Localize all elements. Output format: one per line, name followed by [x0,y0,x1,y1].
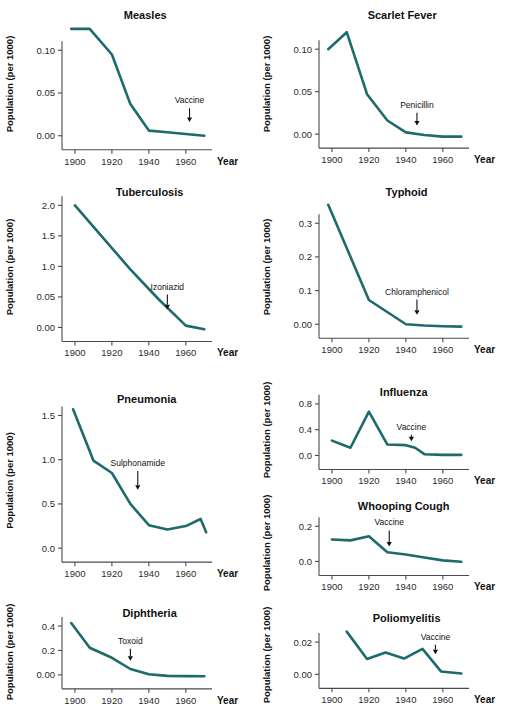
x-tick-label: 1960 [432,344,453,355]
panel-title: Poliomyelitis [373,612,441,624]
data-series-line [71,29,204,136]
data-series-line [332,412,461,455]
x-axis-label: Year [474,344,495,355]
x-tick-label: 1900 [321,154,342,165]
x-tick-label: 1960 [432,581,453,592]
y-tick-label: 2.0 [42,200,55,211]
y-tick-label: 0.02 [294,637,313,648]
y-axis-label: Population (per 1000) [261,495,272,592]
chart-panel-poliomyelitis: PoliomyelitisPopulation (per 1000)0.000.… [257,604,513,714]
x-tick-label: 1960 [175,568,196,579]
x-tick-label: 1940 [138,347,159,358]
annotation-arrow-head [387,542,392,547]
x-axis-label: Year [474,154,495,165]
y-axis-label: Population (per 1000) [261,219,272,316]
y-tick-label: 0.05 [37,87,56,98]
y-tick-label: 1.5 [42,230,55,241]
data-series-line [75,205,204,329]
y-axis-label: Population (per 1000) [4,219,15,316]
annotation-arrow-head [414,121,419,126]
x-tick-label: 1920 [101,347,122,358]
panel-title: Measles [124,9,167,21]
y-tick-label: 0.1 [299,285,312,296]
panel-title: Whooping Cough [358,500,450,512]
y-tick-label: 0.05 [294,86,313,97]
x-tick-label: 1960 [432,154,453,165]
x-tick-label: 1960 [175,347,196,358]
x-tick-label: 1900 [321,344,342,355]
chart-panel-measles: MeaslesPopulation (per 1000)0.000.050.10… [0,0,256,176]
y-axis-label: Population (per 1000) [261,607,272,704]
x-tick-label: 1900 [64,695,85,706]
chart-panel-diphtheria: DiphtheriaPopulation (per 1000)0.000.20.… [0,598,256,714]
chart-panel-typhoid: TyphoidPopulation (per 1000)0.000.10.20.… [257,176,513,366]
panel-title: Scarlet Fever [368,9,438,21]
y-tick-label: 0.00 [37,669,56,680]
panel-title: Pneumonia [117,393,177,405]
y-tick-label: 1.5 [42,410,55,421]
x-tick-label: 1940 [395,581,416,592]
y-tick-label: 0.00 [294,129,313,140]
x-axis-label: Year [217,695,238,706]
annotation-arrow-head [128,656,133,661]
y-tick-label: 0.4 [299,424,312,435]
data-series-line [71,623,204,676]
x-tick-label: 1960 [432,694,453,705]
x-tick-label: 1940 [138,695,159,706]
y-tick-label: 0.00 [294,669,313,680]
x-axis-label: Year [217,156,238,167]
annotation-label: Chloramphenicol [385,287,449,297]
x-axis-label: Year [217,568,238,579]
annotation-arrow-head [414,310,419,315]
y-axis-label: Population (per 1000) [4,432,15,529]
x-tick-label: 1920 [101,568,122,579]
x-axis-label: Year [474,581,495,592]
annotation-arrow-head [409,437,414,442]
x-tick-label: 1900 [64,156,85,167]
x-axis-label: Year [217,347,238,358]
panel-title: Tuberculosis [116,186,184,198]
y-tick-label: 0.0 [299,556,312,567]
y-tick-label: 0.05 [37,291,56,302]
y-tick-label: 0.2 [299,521,312,532]
x-axis-label: Year [474,694,495,705]
chart-panel-scarlet-fever: Scarlet FeverPopulation (per 1000)0.000.… [257,0,513,176]
x-tick-label: 1960 [432,475,453,486]
x-tick-label: 1920 [101,156,122,167]
x-tick-label: 1920 [358,475,379,486]
panel-title: Diphtheria [122,607,177,619]
x-tick-label: 1920 [101,695,122,706]
annotation-arrow-head [433,650,438,655]
y-tick-label: 0.5 [42,498,55,509]
data-series-line [328,32,461,136]
x-tick-label: 1900 [321,475,342,486]
y-tick-label: 1.0 [42,454,55,465]
annotation-label: Penicillin [400,100,434,110]
y-tick-label: 0.00 [37,130,56,141]
y-axis-label: Population (per 1000) [4,604,15,701]
x-tick-label: 1900 [64,347,85,358]
annotation-label: Vaccine [374,517,404,527]
y-tick-label: 0.4 [42,621,55,632]
annotation-label: Vaccine [421,632,451,642]
y-tick-label: 0.2 [299,251,312,262]
y-tick-label: 0.3 [299,218,312,229]
annotation-arrow-head [135,485,140,490]
y-tick-label: 1.0 [42,261,55,272]
y-axis-label: Population (per 1000) [4,36,15,133]
panel-title: Typhoid [386,186,428,198]
x-tick-label: 1940 [395,694,416,705]
x-tick-label: 1920 [358,581,379,592]
data-series-line [332,536,461,561]
y-tick-label: 0.0 [42,543,55,554]
x-tick-label: 1940 [395,475,416,486]
annotation-label: Izoniazid [151,282,185,292]
chart-panel-whooping-cough: Whooping CoughPopulation (per 1000)0.00.… [257,492,513,602]
annotation-arrow-head [187,118,192,123]
x-axis-label: Year [474,475,495,486]
annotation-label: Sulphonamide [111,458,166,468]
chart-grid: MeaslesPopulation (per 1000)0.000.050.10… [0,0,513,714]
panel-title: Influenza [380,386,429,398]
x-tick-label: 1900 [64,568,85,579]
y-tick-label: 0.00 [37,322,56,333]
